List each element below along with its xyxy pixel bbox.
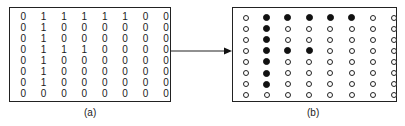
open-dot-icon — [306, 70, 312, 76]
dot-cell — [235, 45, 256, 56]
dot-cell — [299, 79, 320, 90]
panel-a-label: (a) — [84, 107, 96, 118]
open-dot-icon — [285, 70, 291, 76]
dot-cell — [383, 12, 404, 23]
dot-cell — [320, 79, 341, 90]
open-dot-icon — [264, 92, 270, 98]
dot-cell — [277, 67, 298, 78]
open-dot-icon — [306, 81, 312, 87]
open-dot-icon — [243, 48, 249, 54]
open-dot-icon — [327, 70, 333, 76]
dot-cell — [362, 34, 383, 45]
dot-cell — [256, 79, 277, 90]
dot-cell — [383, 45, 404, 56]
dot-cell — [235, 34, 256, 45]
filled-dot-icon — [348, 14, 355, 21]
dot-cell — [235, 56, 256, 67]
dot-cell — [341, 90, 362, 101]
matrix-cell: 0 — [95, 33, 115, 44]
matrix-cell: 0 — [33, 89, 53, 100]
matrix-cell: 0 — [115, 66, 135, 77]
dot-cell — [277, 12, 298, 23]
open-dot-icon — [391, 37, 397, 43]
open-dot-icon — [370, 59, 376, 65]
open-dot-icon — [327, 26, 333, 32]
matrix-cell: 0 — [135, 11, 155, 22]
dot-cell — [383, 79, 404, 90]
filled-dot-icon — [284, 14, 291, 21]
dot-cell — [299, 45, 320, 56]
open-dot-icon — [327, 37, 333, 43]
dot-cell — [341, 56, 362, 67]
matrix-cell: 0 — [74, 66, 94, 77]
open-dot-icon — [391, 92, 397, 98]
open-dot-icon — [370, 70, 376, 76]
matrix-cell: 0 — [156, 11, 176, 22]
matrix-cell: 1 — [95, 11, 115, 22]
matrix-cell: 0 — [13, 22, 33, 33]
dot-cell — [256, 45, 277, 56]
dot-cell — [341, 45, 362, 56]
matrix-cell: 0 — [135, 55, 155, 66]
open-dot-icon — [391, 26, 397, 32]
filled-dot-icon — [306, 14, 313, 21]
matrix-cell: 0 — [95, 89, 115, 100]
filled-dot-icon — [263, 14, 270, 21]
dot-cell — [277, 79, 298, 90]
open-dot-icon — [370, 48, 376, 54]
open-dot-icon — [349, 26, 355, 32]
matrix-cell: 0 — [74, 22, 94, 33]
matrix-cell: 0 — [13, 55, 33, 66]
dot-cell — [320, 67, 341, 78]
dot-cell — [299, 23, 320, 34]
matrix-cell: 0 — [95, 55, 115, 66]
filled-dot-icon — [263, 47, 270, 54]
dot-cell — [299, 34, 320, 45]
dot-cell — [383, 56, 404, 67]
dot-cell — [256, 90, 277, 101]
dot-cell — [362, 90, 383, 101]
dot-cell — [320, 23, 341, 34]
open-dot-icon — [285, 26, 291, 32]
filled-dot-icon — [263, 58, 270, 65]
dot-cell — [320, 12, 341, 23]
dot-cell — [235, 67, 256, 78]
dot-cell — [383, 67, 404, 78]
matrix-cell: 0 — [13, 33, 33, 44]
dot-cell — [256, 67, 277, 78]
open-dot-icon — [285, 37, 291, 43]
dot-cell — [341, 34, 362, 45]
matrix-cell: 1 — [115, 11, 135, 22]
matrix-cell: 1 — [33, 33, 53, 44]
open-dot-icon — [327, 81, 333, 87]
dot-cell — [341, 23, 362, 34]
open-dot-icon — [306, 26, 312, 32]
open-dot-icon — [391, 81, 397, 87]
dot-matrix-panel — [232, 7, 397, 102]
matrix-cell: 0 — [135, 78, 155, 89]
matrix-cell: 1 — [33, 11, 53, 22]
open-dot-icon — [370, 37, 376, 43]
open-dot-icon — [349, 37, 355, 43]
dot-cell — [383, 90, 404, 101]
dot-cell — [235, 12, 256, 23]
dot-matrix-grid — [235, 12, 405, 101]
dot-cell — [299, 56, 320, 67]
matrix-cell: 1 — [33, 44, 53, 55]
open-dot-icon — [285, 59, 291, 65]
dot-cell — [341, 79, 362, 90]
matrix-cell: 0 — [54, 33, 74, 44]
dot-cell — [341, 67, 362, 78]
open-dot-icon — [243, 15, 249, 21]
matrix-cell: 0 — [95, 44, 115, 55]
dot-cell — [299, 67, 320, 78]
open-dot-icon — [370, 26, 376, 32]
open-dot-icon — [391, 70, 397, 76]
dot-cell — [362, 79, 383, 90]
dot-cell — [320, 56, 341, 67]
dot-cell — [383, 23, 404, 34]
matrix-cell: 0 — [54, 78, 74, 89]
dot-cell — [256, 34, 277, 45]
matrix-cell: 0 — [156, 66, 176, 77]
arrow-right-icon — [170, 45, 234, 57]
